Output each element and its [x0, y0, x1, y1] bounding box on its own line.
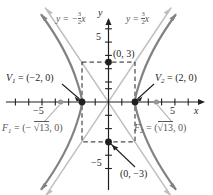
focus-left-radical: √13	[34, 121, 50, 133]
asymptote-arrow-lower-right-icon	[164, 189, 171, 195]
co-vertex-top-point	[105, 59, 112, 66]
asymptote-left-lead: y = −	[56, 14, 78, 24]
y-axis-arrow-icon	[106, 18, 112, 25]
asymptote-left-tail: x	[81, 14, 85, 24]
graph-canvas	[0, 0, 213, 195]
vertex-left-coords: = (−2, 0)	[16, 72, 54, 83]
x-axis-arrow-icon	[198, 99, 205, 105]
curve-arrow-right-bottom-icon	[169, 183, 176, 190]
leader-focus-left	[44, 105, 60, 122]
co-vertex-top-label: (0, 3)	[113, 48, 135, 59]
y-axis-label: y	[98, 7, 102, 18]
co-vertex-bottom-label: (0, −3)	[120, 168, 147, 179]
asymptote-arrow-upper-right-icon	[164, 8, 171, 15]
x-axis-label: x	[194, 105, 198, 116]
y-tick-label-positive-five: 5	[96, 31, 101, 42]
focus-left-point	[58, 99, 63, 104]
x-tick-label-positive-five: 5	[170, 105, 175, 116]
x-tick-label-negative-five: −5	[33, 105, 44, 116]
curve-arrow-left-top-icon	[41, 14, 48, 21]
vertex-right-label: V2 = (2, 0)	[155, 72, 197, 85]
leader-vertex-right	[138, 84, 155, 99]
vertex-left-label: V1 = (−2, 0)	[6, 72, 54, 85]
asymptote-right-lead: y =	[126, 14, 141, 24]
focus-left-eq-post: , 0)	[49, 122, 62, 133]
focus-right-eq-pre: = (	[144, 122, 158, 133]
focus-left-label: F1 = (− √13, 0)	[2, 122, 63, 135]
asymptote-left-label: y = −32x	[56, 11, 85, 26]
curve-arrow-left-bottom-icon	[41, 183, 48, 190]
asymptote-arrow-upper-left-icon	[46, 8, 53, 15]
asymptote-right-label: y = 32x	[126, 11, 149, 26]
focus-right-point	[154, 99, 159, 104]
focus-right-eq-post: , 0)	[173, 122, 186, 133]
focus-left-eq-pre: = (−	[12, 122, 34, 133]
vertex-left-point	[79, 99, 86, 106]
vertex-right-coords: = (2, 0)	[165, 72, 197, 83]
asymptote-right-tail: x	[145, 14, 149, 24]
hyperbola-figure: y = −32x y = 32x V1 = (−2, 0) V2 = (2, 0…	[0, 0, 213, 195]
y-tick-label-negative-five: −5	[91, 157, 102, 168]
focus-right-label: F2 = (√13, 0)	[134, 122, 186, 135]
leader-vertex-left	[62, 84, 80, 99]
focus-right-radical: √13	[158, 121, 174, 133]
vertex-right-point	[132, 99, 139, 106]
asymptote-arrow-lower-left-icon	[46, 189, 53, 195]
curve-arrow-right-top-icon	[169, 14, 176, 21]
